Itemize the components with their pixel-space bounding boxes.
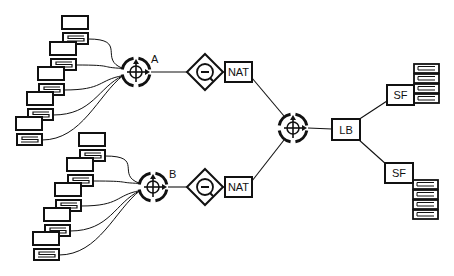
link-lb-sf1	[358, 101, 387, 120]
monitor-icon	[50, 42, 76, 55]
link-natA-core	[252, 78, 284, 116]
monitor-icon	[55, 183, 81, 196]
host-link	[64, 76, 123, 90]
monitor-icon	[16, 117, 42, 130]
workstation	[16, 117, 42, 145]
monitor-icon	[67, 158, 93, 171]
workstation	[33, 232, 59, 260]
router-a-icon	[122, 58, 150, 86]
workstation	[50, 42, 76, 70]
workstation	[67, 158, 93, 186]
workstation	[79, 133, 105, 161]
monitor-icon	[79, 133, 105, 146]
nat-box: NAT	[225, 177, 252, 197]
firewall-icon	[187, 169, 223, 205]
host-link	[93, 181, 140, 183]
server-farm	[414, 64, 439, 103]
core-router-icon	[279, 114, 307, 142]
load-balancer-box: LB	[332, 119, 360, 140]
link-natB-core	[252, 140, 284, 181]
host-link	[105, 156, 140, 183]
workstation	[55, 183, 81, 211]
sf-box: SF	[387, 85, 414, 105]
network-diagram: ABNATNATLBSFSF	[0, 0, 454, 276]
monitor-icon	[44, 208, 70, 221]
nat-label: NAT	[228, 181, 249, 193]
monitor-icon	[33, 232, 59, 245]
link-core-lb	[308, 128, 332, 129]
sf-label: SF	[392, 167, 406, 179]
sf-label: SF	[393, 89, 407, 101]
monitor-icon	[27, 92, 53, 105]
host-link	[76, 65, 123, 68]
monitor-icon	[38, 67, 64, 80]
lb-label: LB	[339, 124, 352, 136]
router-b-icon	[139, 173, 167, 201]
workstation	[38, 67, 64, 95]
workstation	[62, 16, 88, 44]
firewall-icon	[187, 54, 223, 90]
sf-box: SF	[385, 163, 413, 183]
host-link	[88, 39, 123, 68]
router-a-label: A	[151, 53, 159, 65]
link-lb-sf2	[358, 139, 387, 165]
server-farm	[413, 180, 438, 219]
monitor-icon	[62, 16, 88, 29]
nat-label: NAT	[228, 66, 249, 78]
workstation	[27, 92, 53, 120]
router-b-label: B	[169, 168, 176, 180]
nat-box: NAT	[225, 62, 252, 82]
